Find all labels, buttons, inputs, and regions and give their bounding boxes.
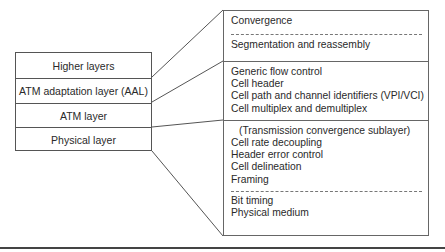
- tc-item: Header error control: [224, 149, 323, 161]
- layer-label: ATM adaptation layer (AAL): [19, 85, 148, 97]
- tc-item: Framing: [224, 174, 323, 186]
- layer-higher: Higher layers: [16, 53, 151, 78]
- pm-item: Bit timing: [224, 195, 309, 207]
- connector-atm-bottom: [152, 120, 223, 127]
- aal-detail-section: Convergence Segmentation and reassembly: [224, 11, 428, 61]
- layer-atm: ATM layer: [16, 103, 151, 128]
- connector-physical-bottom: [152, 151, 223, 236]
- tc-item-list: Cell rate decoupling Header error contro…: [224, 137, 323, 186]
- layer-physical: Physical layer: [16, 127, 151, 151]
- layer-aal: ATM adaptation layer (AAL): [16, 78, 151, 103]
- pm-item-list: Bit timing Physical medium: [224, 195, 309, 219]
- aal-sublayer-divider: [231, 34, 422, 35]
- bottom-rule: [0, 247, 445, 249]
- atm-item: Cell multiplex and demultiplex: [224, 103, 428, 115]
- atm-item: Generic flow control: [224, 66, 428, 78]
- pm-sublayer-divider: [231, 191, 422, 192]
- tc-sublayer-title: (Transmission convergence sublayer): [224, 125, 410, 137]
- layer-stack: Higher layers ATM adaptation layer (AAL)…: [15, 52, 152, 151]
- atm-item: Cell header: [224, 78, 428, 90]
- physical-detail-section: (Transmission convergence sublayer) Cell…: [224, 120, 428, 235]
- layer-label: ATM layer: [60, 110, 107, 122]
- layer-label: Physical layer: [51, 134, 116, 146]
- layer-detail-box: Convergence Segmentation and reassembly …: [223, 10, 429, 236]
- layer-label: Higher layers: [53, 60, 115, 72]
- tc-item: Cell rate decoupling: [224, 137, 323, 149]
- atm-detail-section: Generic flow control Cell header Cell pa…: [224, 61, 428, 120]
- aal-item-convergence: Convergence: [224, 15, 292, 27]
- aal-item-sar: Segmentation and reassembly: [224, 39, 370, 51]
- atm-item: Cell path and channel identifiers (VPI/V…: [224, 90, 428, 102]
- pm-item: Physical medium: [224, 207, 309, 219]
- tc-item: Cell delineation: [224, 161, 323, 173]
